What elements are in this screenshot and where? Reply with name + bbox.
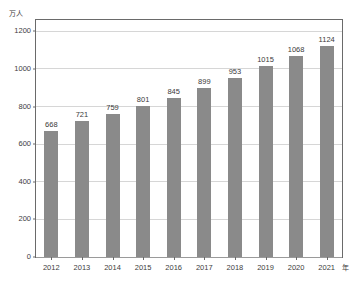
y-tick-mark-200 <box>33 219 36 220</box>
y-tick-mark-0 <box>33 257 36 258</box>
bar-value-label: 845 <box>167 87 180 96</box>
x-tick-mark-2012 <box>51 257 52 260</box>
bar-value-label: 953 <box>229 67 242 76</box>
bar-value-label: 1124 <box>319 35 335 44</box>
bar-value-label: 1015 <box>257 55 274 64</box>
x-tick-label: 2016 <box>165 263 182 272</box>
bar-value-label: 899 <box>198 77 211 86</box>
y-tick-mark-1200 <box>33 31 36 32</box>
y-tick-label: 1000 <box>14 65 31 73</box>
bar[interactable]: 1015 <box>259 66 273 257</box>
plot-inner: 0200400600800100012006682012721201375920… <box>36 20 342 257</box>
y-tick-mark-600 <box>33 144 36 145</box>
bar-value-label: 1068 <box>288 45 305 54</box>
x-tick-label: 2017 <box>196 263 213 272</box>
bar-chart: 万人 0200400600800100012006682012721201375… <box>0 0 355 285</box>
bar[interactable]: 759 <box>106 114 120 257</box>
y-tick-label: 400 <box>18 178 31 186</box>
bar[interactable]: 1068 <box>289 56 303 257</box>
plot-area: 0200400600800100012006682012721201375920… <box>35 19 343 258</box>
bar-value-label: 801 <box>137 95 150 104</box>
y-axis-unit-label: 万人 <box>9 9 23 18</box>
x-tick-mark-2021 <box>327 257 328 260</box>
x-tick-mark-2020 <box>296 257 297 260</box>
x-tick-mark-2018 <box>235 257 236 260</box>
x-tick-mark-2013 <box>82 257 83 260</box>
x-tick-label: 2020 <box>288 263 305 272</box>
y-tick-label: 600 <box>18 140 31 148</box>
x-axis-unit-label: 年 <box>342 263 349 272</box>
y-tick-label: 200 <box>18 215 31 223</box>
x-tick-mark-2015 <box>143 257 144 260</box>
x-tick-label: 2018 <box>227 263 244 272</box>
y-tick-label: 0 <box>27 253 31 261</box>
x-tick-mark-2016 <box>174 257 175 260</box>
bar[interactable]: 801 <box>136 106 150 257</box>
bar[interactable]: 721 <box>75 121 89 257</box>
bar-value-label: 721 <box>76 110 89 119</box>
bar[interactable]: 1124 <box>320 46 334 257</box>
bar-value-label: 668 <box>45 120 58 129</box>
y-tick-label: 1200 <box>14 27 31 35</box>
x-tick-mark-2017 <box>204 257 205 260</box>
bar[interactable]: 953 <box>228 78 242 257</box>
bar-value-label: 759 <box>106 103 119 112</box>
y-tick-mark-800 <box>33 106 36 107</box>
bar[interactable]: 668 <box>44 131 58 257</box>
x-tick-mark-2014 <box>113 257 114 260</box>
bar[interactable]: 845 <box>167 98 181 257</box>
x-tick-label: 2015 <box>135 263 152 272</box>
gridline-y-1200 <box>36 31 342 32</box>
x-tick-mark-2019 <box>266 257 267 260</box>
y-tick-mark-400 <box>33 181 36 182</box>
y-tick-label: 800 <box>18 103 31 111</box>
x-tick-label: 2013 <box>74 263 91 272</box>
y-tick-mark-1000 <box>33 68 36 69</box>
x-tick-label: 2019 <box>257 263 274 272</box>
x-tick-label: 2014 <box>104 263 121 272</box>
bar[interactable]: 899 <box>197 88 211 257</box>
x-tick-label: 2012 <box>43 263 60 272</box>
x-tick-label: 2021 <box>318 263 335 272</box>
